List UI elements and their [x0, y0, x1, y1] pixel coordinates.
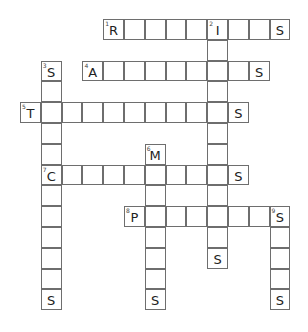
- crossword-cell[interactable]: S: [270, 289, 291, 310]
- crossword-cell[interactable]: S: [207, 248, 228, 269]
- given-letter: R: [104, 22, 123, 39]
- crossword-cell[interactable]: 4A: [82, 61, 103, 82]
- crossword-cell[interactable]: [207, 206, 228, 227]
- crossword-cell[interactable]: S: [228, 165, 249, 186]
- given-letter: S: [271, 22, 290, 39]
- crossword-cell[interactable]: [145, 227, 166, 248]
- crossword-cell[interactable]: 1R: [103, 19, 124, 40]
- crossword-cell[interactable]: 2I: [207, 19, 228, 40]
- given-letter: S: [208, 251, 227, 268]
- crossword-cell[interactable]: [186, 61, 207, 82]
- given-letter: C: [42, 168, 61, 185]
- crossword-cell[interactable]: [145, 19, 166, 40]
- crossword-cell[interactable]: S: [41, 289, 62, 310]
- given-letter: S: [229, 168, 248, 185]
- crossword-cell[interactable]: [62, 165, 83, 186]
- crossword-cell[interactable]: [124, 19, 145, 40]
- crossword-cell[interactable]: S: [270, 19, 291, 40]
- crossword-cell[interactable]: [145, 206, 166, 227]
- crossword-cell[interactable]: [41, 81, 62, 102]
- crossword-cell[interactable]: [41, 227, 62, 248]
- crossword-cell[interactable]: 3S: [41, 61, 62, 82]
- crossword-cell[interactable]: [145, 269, 166, 290]
- crossword-cell[interactable]: 5T: [20, 102, 41, 123]
- crossword-cell[interactable]: [103, 102, 124, 123]
- crossword-cell[interactable]: 8P: [124, 206, 145, 227]
- crossword-cell[interactable]: [270, 248, 291, 269]
- crossword-cell[interactable]: [166, 206, 187, 227]
- crossword-cell[interactable]: [124, 61, 145, 82]
- given-letter: S: [250, 64, 269, 81]
- crossword-cell[interactable]: [41, 269, 62, 290]
- crossword-cell[interactable]: [207, 102, 228, 123]
- crossword-cell[interactable]: [270, 227, 291, 248]
- crossword-cell[interactable]: [41, 123, 62, 144]
- given-letter: S: [42, 64, 61, 81]
- given-letter: A: [83, 64, 102, 81]
- crossword-cell[interactable]: [270, 269, 291, 290]
- crossword-cell[interactable]: [186, 102, 207, 123]
- crossword-cell[interactable]: [249, 19, 270, 40]
- crossword-cell[interactable]: [207, 165, 228, 186]
- crossword-cell[interactable]: [186, 19, 207, 40]
- crossword-cell[interactable]: 9S: [270, 206, 291, 227]
- given-letter: S: [146, 292, 165, 309]
- crossword-cell[interactable]: [124, 165, 145, 186]
- given-letter: S: [42, 292, 61, 309]
- crossword-cell[interactable]: S: [249, 61, 270, 82]
- crossword-cell[interactable]: [207, 123, 228, 144]
- crossword-cell[interactable]: 7C: [41, 165, 62, 186]
- crossword-cell[interactable]: S: [145, 289, 166, 310]
- crossword-cell[interactable]: [166, 102, 187, 123]
- crossword-cell[interactable]: [207, 185, 228, 206]
- crossword-cell[interactable]: [41, 185, 62, 206]
- crossword-cell[interactable]: [145, 165, 166, 186]
- crossword-cell[interactable]: [103, 165, 124, 186]
- given-letter: S: [229, 105, 248, 122]
- crossword-cell[interactable]: [41, 144, 62, 165]
- crossword-cell[interactable]: [249, 206, 270, 227]
- crossword-cell[interactable]: [207, 40, 228, 61]
- crossword-cell[interactable]: [62, 102, 83, 123]
- crossword-grid: 1R2ISS3S7CS4AS5TS6MSS8P9SS: [0, 0, 308, 332]
- crossword-cell[interactable]: [82, 165, 103, 186]
- crossword-cell[interactable]: [207, 81, 228, 102]
- crossword-cell[interactable]: [186, 165, 207, 186]
- crossword-cell[interactable]: [41, 102, 62, 123]
- crossword-cell[interactable]: [166, 19, 187, 40]
- crossword-cell[interactable]: [145, 248, 166, 269]
- given-letter: S: [271, 209, 290, 226]
- given-letter: M: [146, 147, 165, 164]
- crossword-cell[interactable]: [166, 165, 187, 186]
- crossword-cell[interactable]: [145, 61, 166, 82]
- crossword-cell[interactable]: [207, 144, 228, 165]
- crossword-cell[interactable]: [207, 61, 228, 82]
- crossword-cell[interactable]: [228, 206, 249, 227]
- crossword-cell[interactable]: [228, 19, 249, 40]
- given-letter: S: [271, 292, 290, 309]
- crossword-cell[interactable]: 6M: [145, 144, 166, 165]
- given-letter: P: [125, 209, 144, 226]
- crossword-cell[interactable]: [166, 61, 187, 82]
- crossword-cell[interactable]: [145, 185, 166, 206]
- crossword-cell[interactable]: [103, 61, 124, 82]
- crossword-cell[interactable]: S: [228, 102, 249, 123]
- crossword-cell[interactable]: [145, 102, 166, 123]
- crossword-cell[interactable]: [207, 227, 228, 248]
- crossword-cell[interactable]: [124, 102, 145, 123]
- crossword-cell[interactable]: [82, 102, 103, 123]
- given-letter: T: [21, 105, 40, 122]
- crossword-cell[interactable]: [228, 61, 249, 82]
- given-letter: I: [208, 22, 227, 39]
- crossword-cell[interactable]: [41, 206, 62, 227]
- crossword-cell[interactable]: [41, 248, 62, 269]
- crossword-cell[interactable]: [186, 206, 207, 227]
